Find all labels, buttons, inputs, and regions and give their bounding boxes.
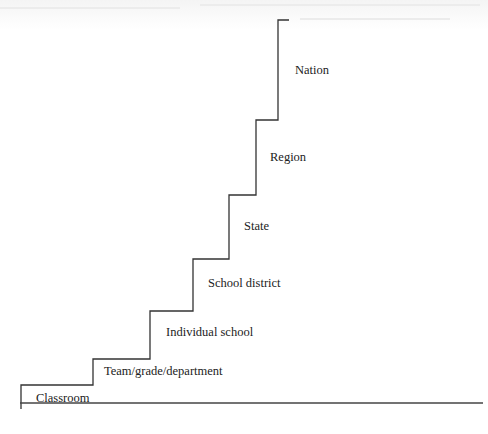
step-label-team: Team/grade/department — [104, 364, 223, 379]
step-label-individual-school: Individual school — [166, 325, 253, 340]
staircase-outline — [21, 20, 289, 409]
step-label-state: State — [244, 219, 269, 234]
step-label-nation: Nation — [295, 63, 329, 78]
step-label-region: Region — [270, 150, 306, 165]
step-label-school-district: School district — [208, 276, 281, 291]
staircase-diagram — [0, 0, 488, 434]
step-label-classroom: Classroom — [36, 391, 89, 406]
